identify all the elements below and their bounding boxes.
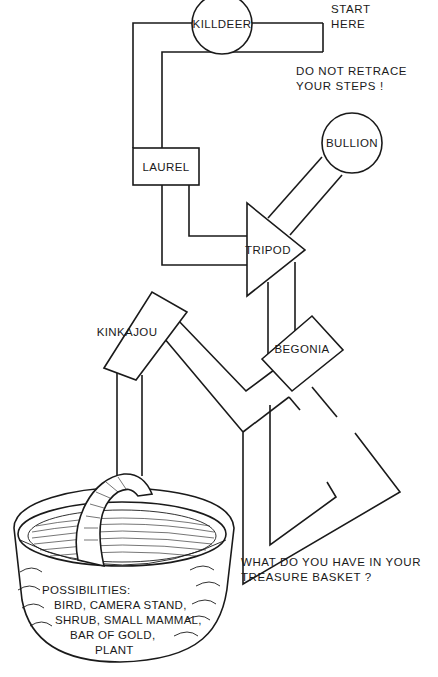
treasure-maze-diagram: KILLDEER START HERE DO NOT RETRACE YOUR … [0,0,438,677]
basket-line-3: BAR OF GOLD, [70,629,155,641]
node-killdeer-label: KILLDEER [193,18,252,30]
node-laurel-label: LAUREL [142,161,189,173]
question-line2: TREASURE BASKET ? [241,571,372,583]
node-killdeer[interactable]: KILLDEER [192,0,252,54]
start-note-line2: HERE [331,18,365,30]
node-laurel[interactable]: LAUREL [133,148,199,185]
start-note-line1: START [331,3,371,15]
node-tripod[interactable]: TRIPOD [245,203,305,296]
node-tripod-label: TRIPOD [245,244,291,256]
rule-note-line1: DO NOT RETRACE [296,65,407,77]
node-begonia-label: BEGONIA [274,343,329,355]
rule-note-line2: YOUR STEPS ! [296,80,384,92]
node-bullion[interactable]: BULLION [322,113,382,173]
node-kinkajou[interactable]: KINKAJOU [97,292,187,380]
path-kinkajou-to-basket [117,366,142,476]
node-kinkajou-label: KINKAJOU [97,326,158,338]
path-tripod-to-bullion [268,157,342,235]
question-line1: WHAT DO YOU HAVE IN YOUR [241,556,421,568]
node-begonia[interactable]: BEGONIA [262,316,343,391]
basket-line-1: BIRD, CAMERA STAND, [54,599,187,611]
node-bullion-label: BULLION [326,137,378,149]
path-laurel-to-tripod [162,185,247,265]
basket-line-4: PLANT [95,644,134,656]
basket-line-2: SHRUB, SMALL MAMMAL, [55,614,202,626]
basket-heading: POSSIBILITIES: [42,584,131,596]
